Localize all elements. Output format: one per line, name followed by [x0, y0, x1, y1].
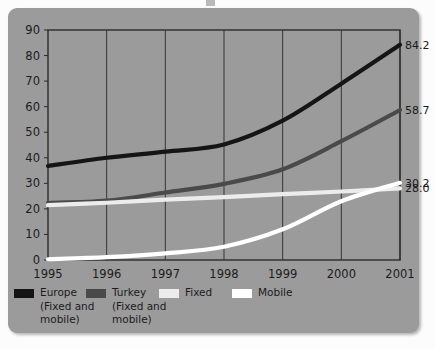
y-axis-tick-label: 50	[25, 125, 40, 139]
series-end-value-labels: 84.258.728.030.2	[405, 39, 430, 196]
x-axis-tick-label: 1999	[268, 267, 297, 281]
gridlines	[107, 30, 400, 260]
legend-swatch-fixed	[159, 289, 179, 298]
x-axis-tick-label: 1998	[209, 267, 238, 281]
legend-swatch-europe	[14, 289, 34, 298]
y-axis-tick-label: 30	[25, 176, 40, 190]
legend-swatch-turkey	[86, 289, 106, 298]
y-axis-tick-label: 60	[25, 100, 40, 114]
x-axis-tick-label: 1997	[151, 267, 180, 281]
y-axis-tick-label: 0	[33, 253, 40, 267]
x-axis-tick-label: 2000	[327, 267, 356, 281]
end-label-turkey: 58.7	[405, 104, 430, 117]
y-axis-tick-label: 70	[25, 74, 40, 88]
end-label-europe: 84.2	[405, 39, 430, 52]
y-axis-tick-labels: 0102030405060708090	[25, 23, 40, 267]
x-axis-tick-label: 1996	[92, 267, 121, 281]
chart-screenshot: 0102030405060708090 19951996199719981999…	[0, 0, 435, 349]
y-axis-tick-label: 40	[25, 151, 40, 165]
legend-label-fixed: Fixed	[185, 286, 212, 300]
y-axis-tick-label: 10	[25, 227, 40, 241]
legend-label-mobile: Mobile	[258, 286, 292, 300]
chart-legend: Europe (Fixed and mobile)Turkey (Fixed a…	[14, 286, 414, 342]
legend-swatch-mobile	[232, 289, 252, 298]
y-axis-tick-label: 20	[25, 202, 40, 216]
x-axis-tick-label: 1995	[33, 267, 62, 281]
y-axis-tick-label: 80	[25, 49, 40, 63]
y-axis-tick-label: 90	[25, 23, 40, 37]
x-axis-tick-labels: 1995199619971998199920002001	[33, 267, 414, 281]
x-axis-tick-label: 2001	[385, 267, 414, 281]
end-label-mobile: 30.2	[405, 177, 430, 190]
